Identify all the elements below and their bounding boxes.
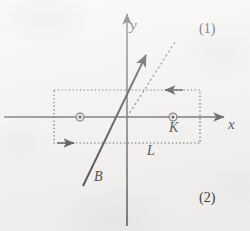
region-label-1: (1): [199, 22, 215, 36]
physics-figure-canvas: y x K L B (1) (2): [0, 0, 250, 231]
point-label-k: K: [169, 121, 178, 135]
b-vector-line: [83, 55, 146, 186]
y-axis-label: y: [130, 18, 137, 33]
field-out-of-page-left-icon: [76, 113, 84, 121]
region-length-label-l: L: [147, 144, 155, 158]
x-axis-label: x: [228, 117, 235, 132]
region-label-2: (2): [199, 191, 215, 205]
vector-label-b: B: [94, 170, 103, 184]
